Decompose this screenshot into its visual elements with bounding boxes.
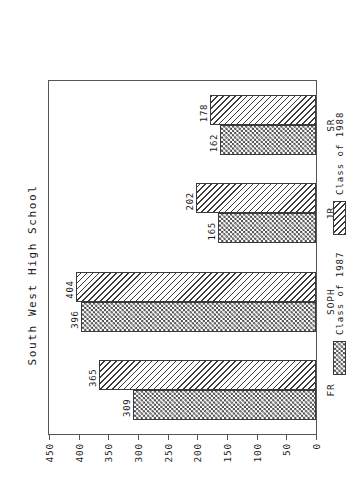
value-axis-label: 350 xyxy=(103,443,114,463)
bar-fr-class-of-1988[interactable]: 365 xyxy=(99,360,316,390)
legend-swatch-icon xyxy=(333,341,346,375)
bar-soph-class-of-1987[interactable]: 396 xyxy=(81,302,316,332)
value-axis-tick xyxy=(257,434,258,440)
bar-sr-class-of-1988[interactable]: 178 xyxy=(210,95,316,125)
bar-soph-class-of-1988[interactable]: 404 xyxy=(76,272,316,302)
value-axis-label: 250 xyxy=(162,443,173,463)
legend-item-class-of-1987[interactable]: Class of 1987 xyxy=(333,252,346,375)
bar-value-label: 365 xyxy=(88,369,98,387)
bar-fr-class-of-1987[interactable]: 309 xyxy=(133,390,316,420)
value-axis-label: 50 xyxy=(281,443,292,456)
value-axis-label: 150 xyxy=(222,443,233,463)
chart-figure: South West High School 05010015020025030… xyxy=(0,0,350,482)
legend-label: Class of 1987 xyxy=(335,252,345,335)
value-axis-tick xyxy=(79,434,80,440)
bar-value-label: 178 xyxy=(199,104,209,122)
plot-area: 050100150200250300350400450 FRSOPHJRSR 3… xyxy=(48,80,317,435)
bar-value-label: 396 xyxy=(70,310,80,328)
chart-title: South West High School xyxy=(26,68,39,482)
bar-value-label: 202 xyxy=(185,192,195,210)
rotated-page-wrapper: South West High School 05010015020025030… xyxy=(0,0,350,482)
value-axis-tick xyxy=(138,434,139,440)
bar-value-label: 309 xyxy=(122,399,132,417)
value-axis-tick xyxy=(108,434,109,440)
chart-legend: Class of 1987Class of 1988 xyxy=(333,80,349,435)
value-axis-label: 100 xyxy=(251,443,262,463)
value-axis-tick xyxy=(49,434,50,440)
bar-jr-class-of-1988[interactable]: 202 xyxy=(196,183,316,213)
value-axis-tick xyxy=(286,434,287,440)
value-axis-label: 450 xyxy=(44,443,55,463)
bar-value-label: 404 xyxy=(65,280,75,298)
value-axis-label: 200 xyxy=(192,443,203,463)
value-axis-label: 0 xyxy=(311,443,322,450)
bar-jr-class-of-1987[interactable]: 165 xyxy=(218,213,316,243)
bar-value-label: 165 xyxy=(207,222,217,240)
legend-item-class-of-1988[interactable]: Class of 1988 xyxy=(333,112,346,235)
value-axis-label: 400 xyxy=(73,443,84,463)
value-axis-tick xyxy=(197,434,198,440)
value-axis-tick xyxy=(227,434,228,440)
value-axis-tick xyxy=(316,434,317,440)
bar-value-label: 162 xyxy=(209,134,219,152)
legend-swatch-icon xyxy=(333,201,346,235)
legend-label: Class of 1988 xyxy=(335,112,345,195)
value-axis-label: 300 xyxy=(133,443,144,463)
bar-sr-class-of-1987[interactable]: 162 xyxy=(220,125,316,155)
value-axis-tick xyxy=(168,434,169,440)
